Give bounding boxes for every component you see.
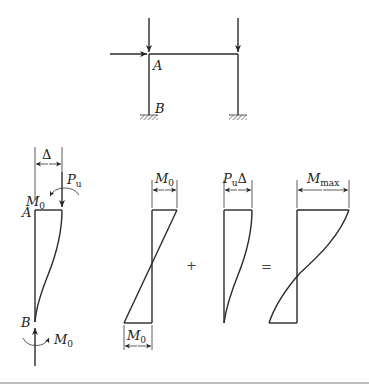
column-bottom-label-b: B — [20, 315, 31, 330]
total-label: Mmax — [306, 171, 339, 188]
deflected-shape-curve — [35, 210, 62, 322]
bottom-moment-arrow-icon — [23, 338, 49, 346]
secondary-moment-diagram: PuΔ — [222, 171, 252, 323]
primary-top-label: M0 — [154, 171, 174, 188]
p-delta-diagram: A B Δ Pu M0 A B M0 M0 M0 — [0, 0, 369, 384]
plus-sign: + — [186, 258, 197, 273]
primary-bottom-label: M0 — [126, 328, 146, 345]
column-top-label-a: A — [21, 205, 31, 220]
base-label-b: B — [154, 101, 165, 116]
secondary-label: PuΔ — [222, 171, 247, 188]
equals-sign: = — [261, 259, 272, 274]
top-moment-arrow-icon — [50, 188, 79, 196]
axial-load-label: Pu — [66, 172, 82, 189]
bottom-moment-label: M0 — [53, 332, 73, 349]
primary-moment-diagram: M0 M0 — [124, 171, 177, 350]
deflection-label: Δ — [42, 147, 51, 162]
fixed-support-right-icon — [229, 115, 247, 120]
portal-frame: A B — [110, 18, 247, 120]
joint-label-a: A — [152, 58, 162, 73]
column-free-body: Δ Pu M0 A B M0 — [20, 147, 82, 366]
total-moment-diagram: Mmax — [269, 171, 349, 323]
